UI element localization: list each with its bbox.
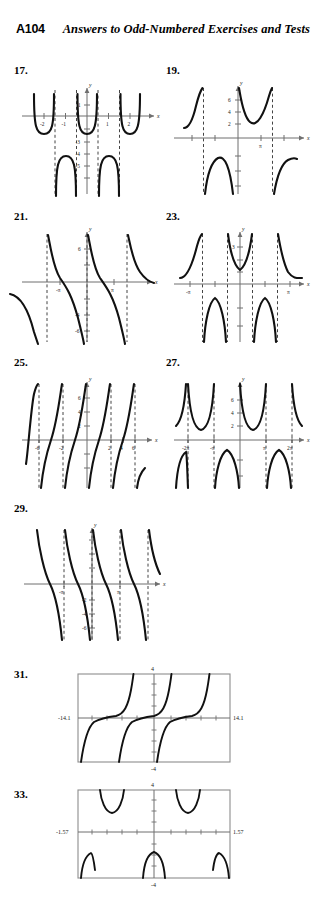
y-tick-label: 4	[228, 109, 231, 115]
answer-number-31: 31.	[14, 668, 28, 680]
x-tick-label: π	[111, 287, 114, 293]
answer-number-23: 23.	[166, 210, 316, 222]
answer-block-25: 25. x y -6 -2 2 4 6	[14, 356, 164, 490]
figure-33: 4 -4 -1.57 1.57	[60, 782, 300, 894]
y-axis-label: y	[239, 80, 243, 86]
answer-block-17: 17. x y -2 -1 1 2	[14, 64, 164, 196]
y-axis-label: y	[241, 376, 245, 382]
y-axis-label: y	[88, 376, 92, 382]
answer-number-21: 21.	[14, 210, 164, 222]
y-tick-label: 4	[231, 410, 234, 416]
x-tick-label: -2	[40, 121, 45, 127]
figure-27: x y -2π -π π 2π 6 4 2	[166, 368, 316, 490]
answer-number-33: 33.	[14, 788, 28, 800]
window-bottom-label: -4	[151, 766, 156, 772]
window-top-label: 4	[151, 782, 154, 788]
window-right-label: 14.1	[233, 715, 244, 721]
figure-23: x y -π π 3	[166, 222, 316, 344]
window-top-label: 4	[151, 666, 154, 672]
y-tick-label: 3	[232, 244, 235, 250]
answer-block-27: 27. x y -2π -π π 2π	[166, 356, 316, 490]
x-axis-label: x	[306, 135, 310, 141]
figure-29: x y -π π -2 -4 -6	[14, 514, 174, 642]
answer-block-29: 29. x y -π π -2	[14, 502, 174, 642]
y-axis-label: y	[88, 82, 92, 88]
answer-number-27: 27.	[166, 356, 316, 368]
figure-25: x y -6 -2 2 4 6 6 4	[14, 368, 164, 490]
answer-number-29: 29.	[14, 502, 174, 514]
y-axis-label: y	[88, 226, 92, 232]
y-tick-label: 2	[228, 121, 231, 127]
x-axis-label: x	[162, 581, 166, 587]
x-axis-label: x	[154, 279, 158, 285]
x-axis-label: x	[306, 281, 310, 287]
answer-number-19: 19.	[166, 64, 316, 76]
y-tick-label: 6	[228, 97, 231, 103]
y-axis-label: y	[93, 522, 97, 528]
answer-block-31: 31.	[14, 668, 28, 680]
x-tick-label: π	[259, 143, 262, 149]
y-tick-label: 6	[78, 395, 81, 401]
window-left-label: -1.57	[56, 829, 69, 835]
x-tick-label: 2	[128, 121, 131, 127]
y-tick-label: -6	[82, 625, 87, 631]
x-axis-label: x	[156, 113, 160, 119]
figure-19: x y π 6 4 2	[166, 76, 316, 196]
page-folio: A104	[16, 22, 45, 36]
figure-31: 4 -4 -14.1 14.1	[60, 662, 300, 774]
y-tick-label: 6	[231, 397, 234, 403]
window-left-label: -14.1	[58, 715, 71, 721]
y-tick-label: 6	[78, 246, 81, 252]
running-head: Answers to Odd-Numbered Exercises and Te…	[63, 22, 310, 37]
y-tick-label: -6	[75, 328, 80, 334]
x-tick-label: -π	[59, 589, 64, 595]
x-tick-label: -π	[56, 287, 61, 293]
answers-page: A104 Answers to Odd-Numbered Exercises a…	[0, 0, 320, 906]
answer-block-23: 23. x y -π π	[166, 210, 316, 344]
window-right-label: 1.57	[233, 829, 244, 835]
window-bottom-label: -4	[151, 882, 156, 888]
answer-block-19: 19. x y π 6	[166, 64, 316, 196]
answer-number-17: 17.	[14, 64, 164, 76]
answer-block-21: 21. x y -π π 6 -4 -6	[14, 210, 164, 344]
x-axis-label: x	[154, 437, 158, 443]
figure-21: x y -π π 6 -4 -6	[14, 222, 164, 344]
answer-number-25: 25.	[14, 356, 164, 368]
x-tick-label: -π	[186, 289, 191, 295]
x-axis-label: x	[306, 437, 310, 443]
figure-17: x y -2 -1 1 2 1 -3 -4	[14, 76, 164, 196]
page-header: A104 Answers to Odd-Numbered Exercises a…	[0, 22, 320, 37]
x-tick-label: 1	[106, 121, 109, 127]
answer-block-33: 33.	[14, 788, 28, 800]
x-tick-label: π	[287, 289, 290, 295]
y-axis-label: y	[241, 226, 245, 232]
x-tick-label: -1	[62, 121, 67, 127]
y-tick-label: 2	[231, 423, 234, 429]
